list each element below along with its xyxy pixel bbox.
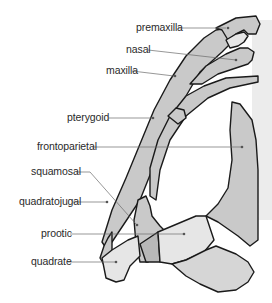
dot-maxilla <box>174 75 177 78</box>
dot-pterygoid <box>152 117 155 120</box>
dot-nasal <box>235 59 238 62</box>
dot-prootic <box>183 233 186 236</box>
dot-squamosal <box>136 224 139 227</box>
dot-quadratojugal <box>106 201 109 204</box>
label-nasal: nasal <box>126 43 151 55</box>
bone-frontoparietal <box>206 102 258 246</box>
leader-maxilla <box>132 71 174 76</box>
label-quadrate: quadrate <box>31 255 72 267</box>
label-quadratojugal: quadratojugal <box>19 195 81 207</box>
label-premaxilla: premaxilla <box>136 21 183 33</box>
dot-frontoparietal <box>241 146 244 149</box>
label-maxilla: maxilla <box>106 64 138 76</box>
label-squamosal: squamosal <box>31 165 81 177</box>
dot-premaxilla <box>227 27 230 30</box>
dot-quadrate <box>115 261 118 264</box>
label-pterygoid: pterygoid <box>67 111 109 123</box>
label-frontoparietal: frontoparietal <box>37 140 97 152</box>
label-prootic: prootic <box>41 227 72 239</box>
